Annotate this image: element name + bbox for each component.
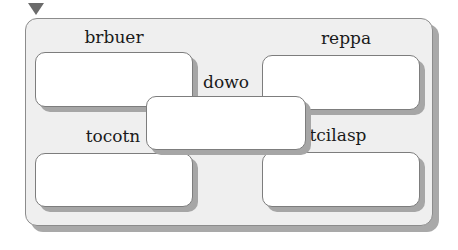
label-center: dowo	[203, 74, 249, 91]
label-bottom-left: tocotn	[86, 128, 141, 145]
label-top-right: reppa	[321, 30, 371, 47]
box-bottom-left[interactable]	[35, 153, 193, 207]
box-bottom-right[interactable]	[262, 152, 420, 207]
triangle-marker-icon	[28, 3, 44, 15]
box-center[interactable]	[146, 96, 306, 150]
label-top-left: brbuer	[84, 29, 143, 46]
label-bottom-right: tcilasp	[310, 127, 367, 144]
